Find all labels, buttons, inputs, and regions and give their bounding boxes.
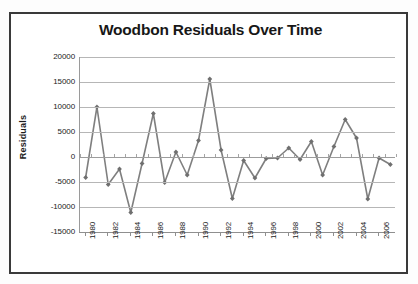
x-tick-mark: [288, 233, 289, 236]
category-tick: [261, 154, 262, 157]
data-point-marker: [83, 175, 88, 180]
gridline-20000: [80, 57, 395, 58]
y-tick-label: -5000: [17, 178, 75, 186]
category-tick: [215, 154, 216, 157]
gridline-15000: [80, 82, 395, 83]
x-tick-label: 1980: [88, 222, 97, 239]
y-tick-label: -10000: [17, 203, 75, 211]
category-tick: [103, 154, 104, 157]
x-tick-label: 2000: [314, 222, 323, 239]
category-tick: [193, 154, 194, 157]
gridline-10000: [80, 107, 395, 108]
x-tick-mark: [265, 233, 266, 236]
x-tick-mark: [107, 233, 108, 236]
gridline--10000: [80, 207, 395, 208]
x-tick-label: 1994: [246, 222, 255, 239]
y-tick-label: 15000: [17, 78, 75, 86]
category-tick: [148, 154, 149, 157]
category-tick: [136, 154, 137, 157]
category-tick: [351, 154, 352, 157]
figure-root: Woodbon Residuals Over Time Residuals 20…: [0, 0, 418, 284]
y-tick-label: -15000: [17, 228, 75, 236]
data-point-marker: [219, 148, 224, 153]
x-tick-label: 1988: [178, 222, 187, 239]
data-point-marker: [332, 144, 337, 149]
y-tick-label: 0: [17, 153, 75, 161]
x-tick-label: 1996: [269, 222, 278, 239]
chart-frame: Woodbon Residuals Over Time Residuals 20…: [9, 12, 408, 274]
category-tick: [385, 154, 386, 157]
x-tick-label: 2002: [336, 222, 345, 239]
category-tick: [204, 154, 205, 157]
category-tick: [373, 154, 374, 157]
x-tick-label: 1998: [291, 222, 300, 239]
x-tick-mark: [152, 233, 153, 236]
x-tick-mark: [356, 233, 357, 236]
category-tick: [317, 154, 318, 157]
series-markers: [83, 77, 393, 215]
category-tick: [306, 154, 307, 157]
x-tick-label: 1990: [201, 222, 210, 239]
x-axis-tick-labels: 1980198219841986198819901992199419961998…: [79, 233, 395, 279]
plot-area: [79, 57, 395, 232]
category-tick: [249, 154, 250, 157]
category-tick: [294, 154, 295, 157]
category-tick: [238, 154, 239, 157]
category-tick: [91, 154, 92, 157]
x-tick-label: 2004: [359, 222, 368, 239]
x-tick-label: 1986: [156, 222, 165, 239]
category-tick: [80, 154, 81, 157]
category-tick: [272, 154, 273, 157]
x-tick-mark: [85, 233, 86, 236]
x-tick-label: 1982: [111, 222, 120, 239]
x-tick-label: 2006: [382, 222, 391, 239]
gridline--5000: [80, 182, 395, 183]
x-tick-mark: [243, 233, 244, 236]
x-tick-mark: [198, 233, 199, 236]
chart-title: Woodbon Residuals Over Time: [11, 21, 410, 39]
x-tick-mark: [310, 233, 311, 236]
x-tick-mark: [333, 233, 334, 236]
x-tick-mark: [220, 233, 221, 236]
data-point-marker: [151, 111, 156, 116]
x-tick-mark: [130, 233, 131, 236]
category-tick: [362, 154, 363, 157]
category-tick: [170, 154, 171, 157]
data-point-marker: [365, 197, 370, 202]
x-tick-label: 1992: [224, 222, 233, 239]
x-tick-label: 1984: [133, 222, 142, 239]
category-tick: [283, 154, 284, 157]
category-tick: [396, 154, 397, 157]
data-point-marker: [320, 173, 325, 178]
category-tick: [328, 154, 329, 157]
category-tick: [159, 154, 160, 157]
data-point-marker: [128, 210, 133, 215]
x-tick-mark: [175, 233, 176, 236]
gridline-5000: [80, 132, 395, 133]
residuals-line-series: [80, 57, 396, 232]
category-tick: [340, 154, 341, 157]
y-tick-label: 5000: [17, 128, 75, 136]
gridline-0: [80, 157, 395, 158]
y-axis-tick-labels: 20000150001000050000-5000-10000-15000: [15, 57, 75, 232]
category-tick: [114, 154, 115, 157]
data-point-marker: [230, 196, 235, 201]
category-tick: [125, 154, 126, 157]
y-tick-label: 20000: [17, 53, 75, 61]
data-point-marker: [207, 77, 212, 82]
category-tick: [182, 154, 183, 157]
x-tick-mark: [378, 233, 379, 236]
data-point-marker: [196, 138, 201, 143]
series-line-path: [86, 79, 391, 213]
category-tick: [227, 154, 228, 157]
data-point-marker: [140, 161, 145, 166]
y-tick-label: 10000: [17, 103, 75, 111]
